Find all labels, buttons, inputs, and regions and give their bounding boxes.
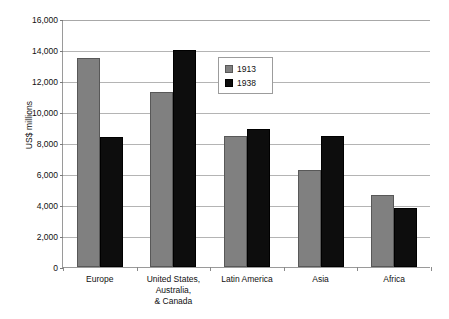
x-tick-mark	[357, 267, 358, 271]
x-tick-mark	[63, 267, 64, 271]
y-tick-mark	[60, 237, 63, 238]
legend-item-label: 1913	[237, 64, 256, 74]
bar-group	[150, 20, 196, 267]
y-tick-mark	[60, 113, 63, 114]
x-tick-mark	[137, 267, 138, 271]
bar-1913	[371, 195, 394, 267]
y-tick-mark	[60, 20, 63, 21]
y-tick-label: 0	[53, 263, 58, 273]
bar-1913	[77, 58, 100, 267]
y-tick-label: 4,000	[37, 201, 58, 211]
y-tick-label: 10,000	[32, 108, 58, 118]
bar-1913	[224, 136, 247, 267]
bar-group	[371, 20, 417, 267]
bar-group	[298, 20, 344, 267]
legend: 1913 1938	[218, 57, 273, 94]
bar-1913	[150, 92, 173, 267]
y-tick-label: 2,000	[37, 232, 58, 242]
gray-swatch-icon	[225, 65, 233, 73]
y-tick-mark	[60, 51, 63, 52]
y-tick-label: 16,000	[32, 15, 58, 25]
legend-item: 1938	[225, 76, 268, 90]
bar-1938	[173, 50, 196, 267]
legend-item-label: 1938	[237, 78, 256, 88]
y-tick-mark	[60, 175, 63, 176]
bar-1938	[247, 129, 270, 267]
bar-group	[77, 20, 123, 267]
legend-item: 1913	[225, 62, 268, 76]
bar-1938	[100, 137, 123, 267]
x-tick-mark	[210, 267, 211, 271]
bar-1938	[321, 136, 344, 267]
x-tick-mark	[284, 267, 285, 271]
x-category-label: Africa	[346, 274, 442, 285]
y-tick-mark	[60, 206, 63, 207]
y-tick-mark	[60, 82, 63, 83]
y-tick-label: 8,000	[37, 139, 58, 149]
y-tick-label: 12,000	[32, 77, 58, 87]
black-swatch-icon	[225, 79, 233, 87]
y-tick-label: 14,000	[32, 46, 58, 56]
bar-1913	[298, 170, 321, 267]
x-tick-mark	[431, 267, 432, 271]
y-tick-label: 6,000	[37, 170, 58, 180]
y-tick-mark	[60, 144, 63, 145]
bar-1938	[394, 208, 417, 267]
bar-chart: US$ millions 16,00014,00012,00010,0008,0…	[0, 0, 449, 319]
